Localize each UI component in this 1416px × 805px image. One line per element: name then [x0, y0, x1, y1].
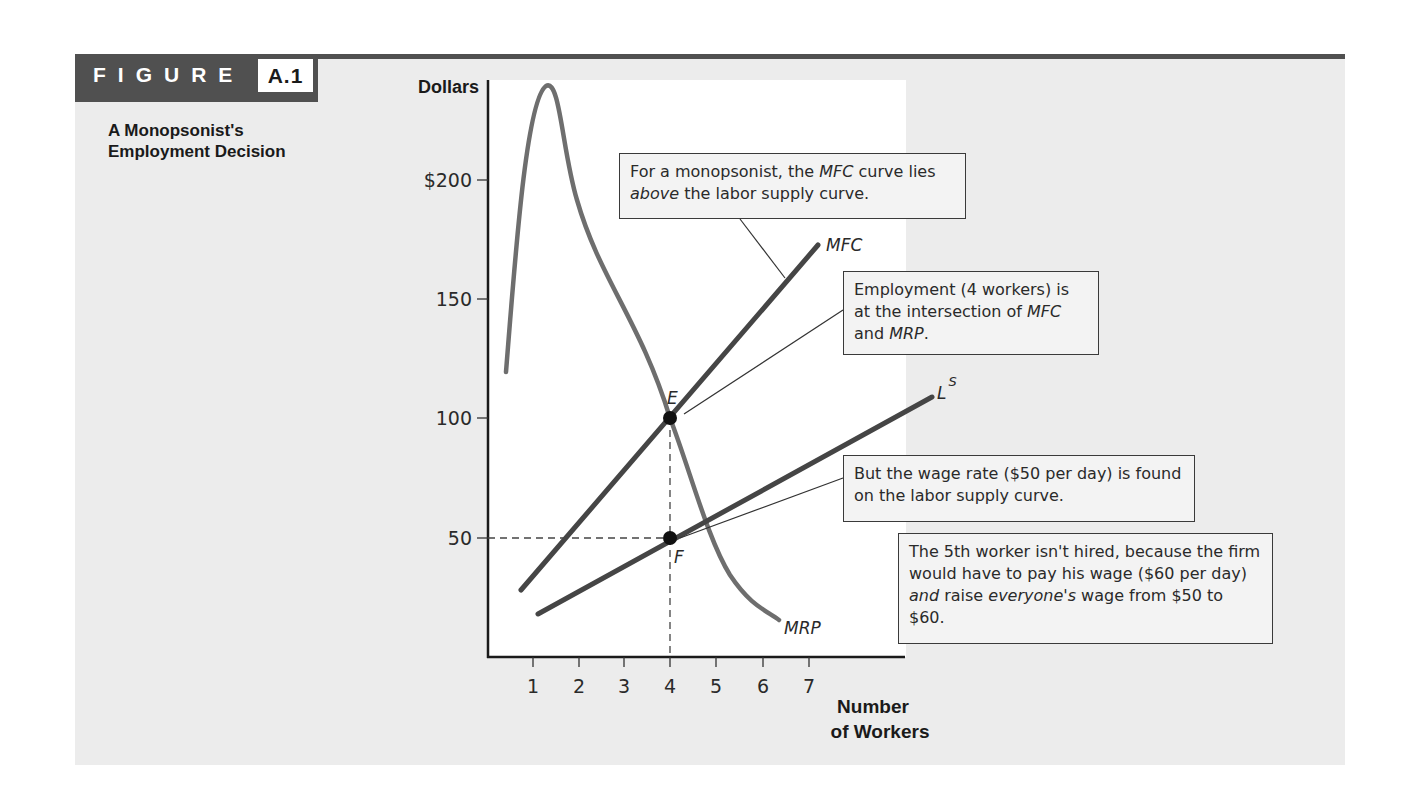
x-axis-title-line1: Number	[837, 696, 909, 717]
ls-label: LS	[937, 374, 957, 403]
y-tick-label: 150	[436, 288, 472, 310]
ls-label-superscript: S	[948, 374, 956, 389]
x-tick-label: 7	[803, 675, 815, 697]
callout-employment-note: Employment (4 workers) is at the interse…	[843, 271, 1099, 355]
leader-line-mfc-note	[740, 219, 785, 278]
y-axis-title: Dollars	[418, 77, 479, 97]
point-e	[663, 411, 677, 425]
chart-svg: Dollars $200 150 100 50 1 2 3 4 5 6 7 Nu…	[0, 0, 1416, 805]
point-f	[663, 531, 677, 545]
mfc-label: MFC	[826, 235, 862, 255]
x-axis-title-line2: of Workers	[831, 721, 930, 742]
x-tick-label: 2	[573, 675, 585, 697]
point-e-label: E	[667, 388, 678, 408]
x-tick-label: 3	[618, 675, 630, 697]
callout-wage-note: But the wage rate ($50 per day) is found…	[843, 455, 1195, 522]
mrp-label: MRP	[784, 618, 821, 638]
leader-line-wage-note	[680, 478, 843, 538]
point-f-label: F	[674, 547, 684, 567]
x-tick-label: 5	[710, 675, 722, 697]
callout-fifth-worker-note: The 5th worker isn't hired, because the …	[898, 533, 1273, 644]
x-tick-label: 6	[757, 675, 769, 697]
x-tick-label: 4	[664, 675, 676, 697]
x-ticks: 1 2 3 4 5 6 7	[527, 657, 815, 697]
x-tick-label: 1	[527, 675, 539, 697]
y-tick-label: $200	[424, 169, 472, 191]
y-tick-label: 50	[448, 527, 472, 549]
callout-mfc-note: For a monopsonist, the MFC curve lies ab…	[619, 153, 966, 219]
y-tick-label: 100	[436, 407, 472, 429]
leader-line-employment-note	[684, 310, 843, 414]
ls-label-main: L	[937, 383, 946, 403]
y-ticks: $200 150 100 50	[424, 169, 488, 549]
